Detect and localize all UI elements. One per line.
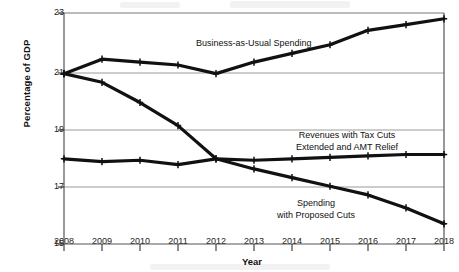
data-point-marker bbox=[441, 15, 447, 22]
series-label-line: Revenues with Tax Cuts bbox=[296, 130, 398, 142]
data-point-marker bbox=[175, 61, 181, 68]
data-point-marker bbox=[289, 174, 295, 181]
data-point-marker bbox=[99, 158, 105, 165]
series-label-line: Extended and AMT Relief bbox=[296, 142, 398, 154]
series-label-proposed-cuts: Spending with Proposed Cuts bbox=[277, 198, 355, 221]
x-axis-tick-marks bbox=[64, 244, 444, 251]
data-point-marker bbox=[213, 70, 219, 77]
y-axis-tick-marks bbox=[58, 13, 64, 244]
data-point-marker bbox=[61, 155, 67, 162]
series-label-line: Business-as-Usual Spending bbox=[196, 38, 312, 50]
series-label-line: Spending bbox=[277, 198, 355, 210]
data-point-marker bbox=[403, 21, 409, 28]
data-point-marker bbox=[403, 151, 409, 158]
data-point-marker bbox=[251, 165, 257, 172]
data-point-marker bbox=[365, 191, 371, 198]
series-label-business-as-usual: Business-as-Usual Spending bbox=[196, 38, 312, 50]
data-point-marker bbox=[289, 155, 295, 162]
data-point-marker bbox=[365, 152, 371, 159]
data-point-marker bbox=[137, 157, 143, 164]
data-point-marker bbox=[137, 58, 143, 65]
data-point-marker bbox=[327, 154, 333, 161]
data-point-marker bbox=[251, 58, 257, 65]
data-point-marker bbox=[289, 50, 295, 57]
data-point-marker bbox=[327, 183, 333, 190]
series-label-revenues: Revenues with Tax Cuts Extended and AMT … bbox=[296, 130, 398, 153]
data-point-marker bbox=[175, 161, 181, 168]
data-point-marker bbox=[441, 151, 447, 158]
data-point-marker bbox=[251, 157, 257, 164]
series-label-line: with Proposed Cuts bbox=[277, 210, 355, 222]
